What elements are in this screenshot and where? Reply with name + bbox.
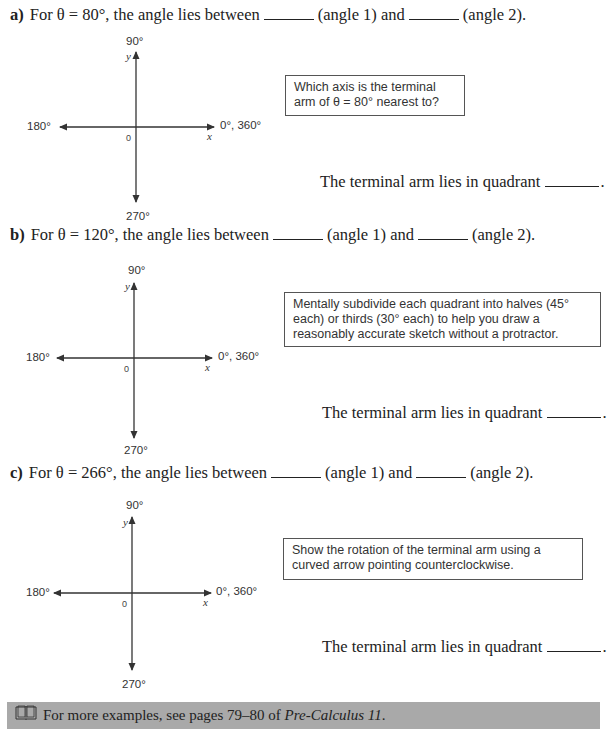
quadrant-blank[interactable] <box>547 650 601 652</box>
question-c: c)For θ = 266°, the angle lies between(a… <box>10 463 533 483</box>
label-0-360: 0°, 360° <box>216 585 257 597</box>
label-90: 90° <box>126 499 143 511</box>
part-label: b) <box>10 225 25 244</box>
part-label: a) <box>10 5 24 24</box>
label-180: 180° <box>27 120 51 132</box>
answer-line-a: The terminal arm lies in quadrant. <box>320 172 605 192</box>
axes-diagram-a[interactable]: 90° y 180° 0°, 360° x 0 270° <box>0 30 260 230</box>
axes-diagram-b[interactable]: 90° y 180° 0°, 360° x 0 270° <box>0 258 260 458</box>
angle2-blank[interactable] <box>409 18 459 20</box>
answer-text: The terminal arm lies in quadrant <box>320 172 540 191</box>
question-text: For θ = 80°, the angle lies between <box>30 5 260 24</box>
reference-end: . <box>382 707 386 723</box>
label-180: 180° <box>26 586 50 598</box>
quadrant-blank[interactable] <box>545 185 599 187</box>
book-title: Pre-Calculus 11 <box>285 707 382 723</box>
angle2-label: (angle 2). <box>470 463 533 482</box>
hint-box-c: Show the rotation of the terminal arm us… <box>283 538 583 580</box>
axes-diagram-c[interactable]: 90° y 180° 0°, 360° x 0 270° <box>0 492 260 692</box>
origin-label: 0 <box>126 133 131 143</box>
label-270: 270° <box>122 678 146 690</box>
hint-box-a: Which axis is the terminal arm of θ = 80… <box>285 75 465 116</box>
reference-bar: For more examples, see pages 79–80 of Pr… <box>7 702 600 729</box>
angle1-blank[interactable] <box>273 238 323 240</box>
label-0-360: 0°, 360° <box>218 350 259 362</box>
label-270: 270° <box>126 210 150 222</box>
label-90: 90° <box>128 264 145 276</box>
angle1-label: (angle 1) and <box>327 225 414 244</box>
label-270: 270° <box>124 444 148 456</box>
y-axis-label: y <box>126 50 131 62</box>
angle2-blank[interactable] <box>418 238 468 240</box>
answer-text: The terminal arm lies in quadrant <box>322 403 542 422</box>
label-0-360: 0°, 360° <box>220 119 261 131</box>
book-icon <box>15 703 37 730</box>
angle2-label: (angle 2). <box>463 5 526 24</box>
x-axis-label: x <box>203 596 208 608</box>
question-text: For θ = 120°, the angle lies between <box>31 225 269 244</box>
question-b: b)For θ = 120°, the angle lies between(a… <box>10 225 535 245</box>
angle2-label: (angle 2). <box>472 225 535 244</box>
angle1-label: (angle 1) and <box>325 463 412 482</box>
angle1-blank[interactable] <box>271 476 321 478</box>
answer-text: The terminal arm lies in quadrant <box>322 637 542 656</box>
origin-label: 0 <box>124 364 129 374</box>
reference-text: For more examples, see pages 79–80 of <box>43 707 281 723</box>
y-axis-label: y <box>125 280 130 292</box>
x-axis-label: x <box>207 130 212 142</box>
part-label: c) <box>10 463 23 482</box>
x-axis-label: x <box>205 361 210 373</box>
question-text: For θ = 266°, the angle lies between <box>29 463 267 482</box>
angle1-blank[interactable] <box>264 18 314 20</box>
origin-label: 0 <box>122 599 127 609</box>
angle2-blank[interactable] <box>416 476 466 478</box>
hint-box-b: Mentally subdivide each quadrant into ha… <box>284 292 601 347</box>
label-180: 180° <box>26 351 50 363</box>
answer-line-b: The terminal arm lies in quadrant. <box>322 403 607 423</box>
label-90: 90° <box>126 35 143 47</box>
angle1-label: (angle 1) and <box>318 5 405 24</box>
question-a: a)For θ = 80°, the angle lies between(an… <box>10 5 526 25</box>
y-axis-label: y <box>123 516 128 528</box>
quadrant-blank[interactable] <box>547 416 601 418</box>
answer-line-c: The terminal arm lies in quadrant. <box>322 637 607 657</box>
